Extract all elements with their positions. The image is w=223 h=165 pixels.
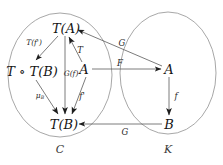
node-TA: T(A)	[52, 22, 80, 35]
node-TTB: T ∘ T(B)	[6, 65, 58, 78]
arrow-label-G-f: G(f)	[64, 70, 79, 78]
node-B-target: B	[164, 118, 174, 131]
arrow-label-f: f	[174, 92, 177, 101]
arrow-label-mu-B: μB	[36, 92, 44, 101]
arrow-label-f-prime: f'	[79, 92, 84, 101]
arrow-label-G-top: G	[119, 39, 126, 48]
category-label-K: K	[164, 144, 172, 155]
node-A-source: A	[79, 63, 88, 76]
arrow-label-F: F	[117, 59, 123, 68]
node-A-target: A	[164, 63, 173, 76]
category-label-C: C	[56, 144, 64, 155]
arrow-label-G-bottom: G	[122, 128, 129, 137]
arrow-label-T: T	[77, 46, 83, 55]
arrow-label-T-f-prime: T(f')	[26, 39, 42, 47]
diagram-canvas	[0, 0, 223, 165]
commutative-diagram: T(A) T ∘ T(B) A T(B) A B T(f') T G(f) μB…	[0, 0, 223, 165]
mu-subscript: B	[41, 95, 44, 100]
node-TB: T(B)	[50, 118, 78, 131]
